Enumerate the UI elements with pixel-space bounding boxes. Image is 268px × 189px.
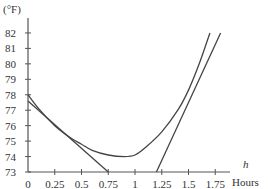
series-lines: [28, 33, 221, 172]
x-tick-label: 1: [132, 178, 138, 189]
y-ticks: 73747576777879808182: [5, 27, 31, 178]
y-tick-label: 77: [5, 104, 17, 116]
y-tick-label: 75: [5, 135, 17, 147]
x-tick-label: 0: [25, 178, 31, 189]
temperature-curve: [28, 33, 210, 157]
y-tick-label: 76: [5, 120, 17, 132]
x-tick-label: 0.25: [45, 178, 65, 189]
y-tick-label: 74: [5, 151, 17, 163]
x-tick-label: 1.5: [182, 178, 196, 189]
x-axis-label: Hours: [232, 176, 259, 188]
y-tick-label: 81: [5, 42, 16, 54]
tangent-line: [28, 101, 108, 172]
y-axis-label: (°F): [3, 3, 21, 16]
y-tick-label: 80: [5, 58, 17, 70]
tangent-line: [156, 33, 220, 172]
x-tick-label: 1.75: [206, 178, 226, 189]
y-tick-label: 78: [5, 89, 17, 101]
temperature-chart: (°F) 73747576777879808182 00.250.50.7511…: [0, 0, 268, 189]
x-tick-label: 0.75: [99, 178, 119, 189]
x-axis-variable: h: [243, 158, 249, 170]
x-tick-label: 0.5: [75, 178, 89, 189]
y-tick-label: 73: [5, 166, 17, 178]
y-tick-label: 82: [5, 27, 16, 39]
x-tick-label: 1.25: [152, 178, 172, 189]
y-tick-label: 79: [5, 73, 17, 85]
